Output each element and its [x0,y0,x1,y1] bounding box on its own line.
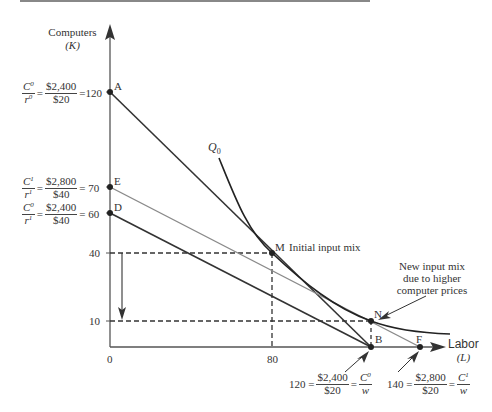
formula-B: 120 = $2,400$20 = C0w [289,372,372,396]
label-E: E [114,176,121,187]
point-B [368,344,374,350]
x-tick-80: 80 [267,354,278,365]
label-A: A [114,81,122,92]
y-tick-10: 10 [89,316,100,327]
formula-D: C0r1 = $2,400$40 = 60 [22,202,99,226]
formula-F: 140 = $2,800$20 = C1w [387,372,470,396]
label-M: M [275,242,285,253]
y-tick-40: 40 [89,248,100,259]
point-D [107,210,113,216]
isocost-EF [110,187,420,347]
y-axis-title: Computers (K) [45,27,100,51]
annotation-arrow-B-head-icon [357,351,369,363]
label-F: F [416,334,422,345]
formula-A: C0r0 = $2,400$20 =120 [22,81,102,105]
isocost-DB [110,213,371,347]
point-E [107,184,113,190]
origin-label: 0 [107,354,113,365]
x-axis-title: Labor (L) [448,338,479,363]
annotation-new-mix: New input mix due to higher computer pri… [383,260,481,296]
annotation-arrow-F [398,357,413,372]
label-D: D [114,202,122,213]
label-Q0: Q0 [208,141,221,156]
annotation-arrow-N [385,296,426,316]
annotation-arrow-B [345,356,363,372]
formula-E: C1r1 = $2,800$40 = 70 [22,176,99,200]
label-N: N [374,309,382,320]
label-B: B [375,334,382,345]
isocost-AB [110,92,371,347]
point-A [107,89,113,95]
annotation-initial-mix: Initial input mix [289,242,361,253]
